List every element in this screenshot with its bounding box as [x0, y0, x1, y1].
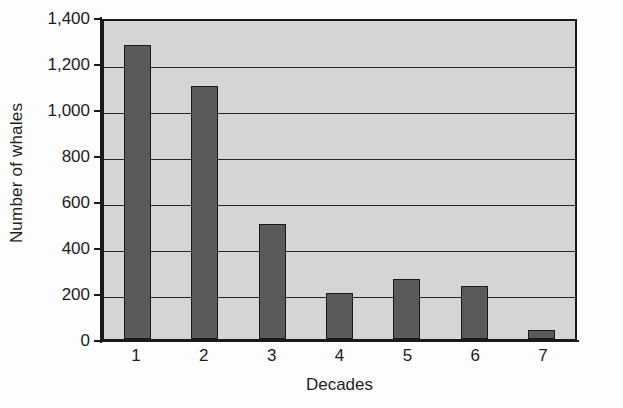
y-axis-tick-label: 800 [62, 147, 90, 167]
y-axis-tick-label: 1,200 [47, 55, 90, 75]
bar [528, 330, 555, 339]
bar [393, 279, 420, 339]
x-axis-title: Decades [102, 375, 577, 395]
bars-layer [104, 21, 575, 339]
y-axis-tick-mark [94, 110, 101, 112]
bar-slot [306, 21, 373, 339]
y-axis-tick-mark [94, 18, 101, 20]
bar-slot [239, 21, 306, 339]
y-axis-tick-label: 400 [62, 239, 90, 259]
plot-area [102, 19, 577, 341]
bar [124, 45, 151, 339]
x-axis-tick-label: 1 [102, 346, 170, 372]
y-axis-tick-label: 0 [81, 331, 90, 351]
y-axis-tick-mark [94, 64, 101, 66]
y-axis-tick-labels: 02004006008001,0001,2001,400 [34, 0, 96, 360]
bar-slot [440, 21, 507, 339]
y-axis-tick-label: 200 [62, 285, 90, 305]
bar-slot [508, 21, 575, 339]
x-axis-tick-label: 6 [441, 346, 509, 372]
x-axis-spine [100, 340, 579, 342]
bar [259, 224, 286, 339]
x-axis-tick-label: 3 [238, 346, 306, 372]
y-axis-tick-label: 600 [62, 193, 90, 213]
x-axis-tick-labels: 1234567 [102, 346, 577, 372]
bar-slot [373, 21, 440, 339]
y-axis-tick-mark [94, 294, 101, 296]
bar [461, 286, 488, 339]
bar [326, 293, 353, 339]
y-axis-title-label: Number of whales [7, 102, 27, 242]
y-axis-tick-label: 1,400 [47, 9, 90, 29]
x-axis-tick-label: 5 [373, 346, 441, 372]
bar-slot [104, 21, 171, 339]
x-axis-tick-label: 2 [170, 346, 238, 372]
y-axis-tick-mark [94, 340, 101, 342]
y-axis-tick-mark [94, 156, 101, 158]
bar [191, 86, 218, 339]
y-axis-tick-label: 1,000 [47, 101, 90, 121]
y-axis-title: Number of whales [0, 0, 34, 345]
bar-chart-figure: Number of whales 02004006008001,0001,200… [0, 0, 623, 408]
y-axis-tick-mark [94, 248, 101, 250]
x-axis-tick-label: 4 [306, 346, 374, 372]
bar-slot [171, 21, 238, 339]
y-axis-tick-mark [94, 202, 101, 204]
x-axis-tick-label: 7 [509, 346, 577, 372]
